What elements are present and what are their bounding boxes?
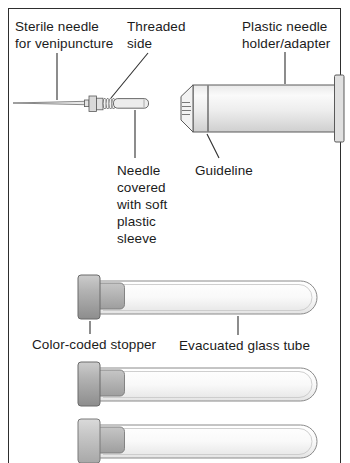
plastic-holder-label: Plastic needle holder/adapter xyxy=(242,18,330,52)
needle-assembly xyxy=(13,96,149,112)
holder-bevel-tip xyxy=(181,85,193,132)
evacuated-tube-3 xyxy=(78,419,317,463)
sterile-needle-label: Sterile needle for venipuncture xyxy=(15,18,113,52)
holder-flange xyxy=(335,75,345,142)
equipment-illustration xyxy=(0,0,350,463)
stopper-cap xyxy=(78,419,100,463)
evacuated-tube-label: Evacuated glass tube xyxy=(179,337,310,354)
holder-body xyxy=(193,85,335,132)
needle-shaft xyxy=(13,101,85,104)
needle-holder xyxy=(181,75,344,142)
evacuated-tube-2 xyxy=(78,362,317,406)
leader-threaded-side xyxy=(111,53,148,98)
tube-body xyxy=(100,368,318,401)
needle-sleeve-label: Needle covered with soft plastic sleeve xyxy=(117,162,167,247)
stopper-cap xyxy=(78,275,100,319)
needle-hub-barrel xyxy=(97,98,104,110)
color-coded-stopper-label: Color-coded stopper xyxy=(32,336,156,353)
tube-body xyxy=(100,281,318,314)
needle-sleeve xyxy=(114,99,149,109)
leader-guideline xyxy=(207,134,219,158)
tube-body xyxy=(100,425,318,458)
needle-hub-neck xyxy=(85,100,90,107)
evacuated-tube-1 xyxy=(78,275,317,319)
threaded-side-label: Threaded side xyxy=(127,18,186,52)
guideline-label: Guideline xyxy=(195,162,253,179)
venipuncture-equipment-figure: Sterile needle for venipuncture Threaded… xyxy=(0,0,350,463)
stopper-cap xyxy=(78,362,100,406)
needle-hub-flange xyxy=(89,96,97,112)
